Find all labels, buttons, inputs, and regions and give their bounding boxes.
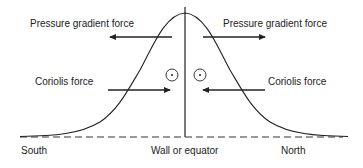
wall-or-equator-label: Wall or equator bbox=[151, 145, 218, 157]
coriolis-left-label: Coriolis force bbox=[35, 76, 93, 88]
geostrophic-balance-diagram: Pressure gradient force Pressure gradien… bbox=[0, 0, 363, 168]
pgf-right-label: Pressure gradient force bbox=[223, 18, 327, 30]
sea-surface-bell-curve bbox=[20, 13, 348, 137]
coriolis-right-label: Coriolis force bbox=[268, 76, 326, 88]
north-label: North bbox=[281, 145, 305, 157]
out-of-page-icon-left bbox=[166, 69, 178, 81]
pgf-left-label: Pressure gradient force bbox=[30, 18, 134, 30]
out-of-page-icon-right bbox=[194, 69, 206, 81]
south-label: South bbox=[21, 145, 47, 157]
